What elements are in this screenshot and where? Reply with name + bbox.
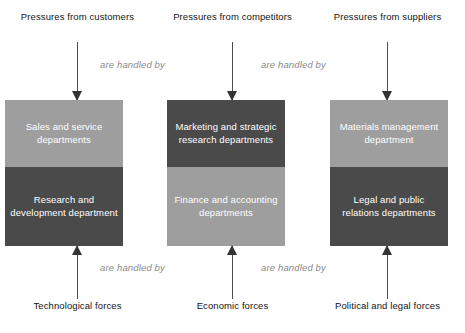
force-label-top-competitors: Pressures from competitors [155, 11, 310, 24]
force-label-bottom-political-legal: Political and legal forces [310, 300, 465, 313]
connector-label-top-left: are handled by [100, 59, 165, 71]
department-cell-marketing-and-strategic-research: Marketing and strategic research departm… [167, 100, 285, 167]
force-label-top-suppliers: Pressures from suppliers [310, 11, 465, 24]
arrowhead-icon [227, 245, 237, 255]
force-label-bottom-technological: Technological forces [0, 300, 155, 313]
arrowhead-icon [72, 245, 82, 255]
arrow-down-competitors [227, 42, 238, 100]
force-label-bottom-economic: Economic forces [155, 300, 310, 313]
arrow-up-technological [72, 246, 83, 299]
department-cell-legal-and-public-relations: Legal and public relations departments [330, 167, 448, 246]
arrow-down-suppliers [382, 42, 393, 100]
diagram-column-competitors: Pressures from competitors Marketing and… [155, 0, 310, 333]
arrowhead-icon [382, 245, 392, 255]
force-label-top-customers: Pressures from customers [0, 11, 155, 24]
arrow-down-customers [72, 42, 83, 100]
department-cell-finance-and-accounting: Finance and accounting departments [167, 167, 285, 246]
department-cell-sales-and-service: Sales and service departments [5, 100, 123, 167]
arrow-up-economic [227, 246, 238, 299]
department-stack-suppliers: Materials management department Legal an… [330, 100, 448, 246]
department-cell-materials-management: Materials management department [330, 100, 448, 167]
department-stack-competitors: Marketing and strategic research departm… [167, 100, 285, 246]
connector-label-bottom-right: are handled by [261, 262, 326, 274]
diagram-column-suppliers: Pressures from suppliers Materials manag… [310, 0, 465, 333]
department-stack-customers: Sales and service departments Research a… [5, 100, 123, 246]
connector-label-top-right: are handled by [261, 59, 326, 71]
arrow-up-political-legal [382, 246, 393, 299]
environmental-forces-diagram: Pressures from customers Sales and servi… [0, 0, 465, 333]
department-cell-research-and-development: Research and development department [5, 167, 123, 246]
connector-label-bottom-left: are handled by [100, 262, 165, 274]
diagram-column-customers: Pressures from customers Sales and servi… [0, 0, 155, 333]
